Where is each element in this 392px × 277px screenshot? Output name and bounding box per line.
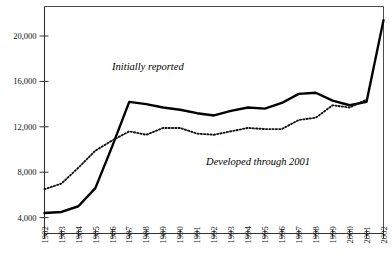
- series-label: Initially reported: [111, 61, 184, 72]
- x-tick-label: 1988: [141, 226, 151, 243]
- series-line-dotted: [45, 100, 367, 190]
- y-tick-label: 12,000: [13, 122, 36, 132]
- x-tick-label: 1997: [294, 226, 304, 244]
- x-tick-label: 1992: [209, 226, 219, 243]
- x-tick-label: 1990: [175, 226, 185, 243]
- y-axis-labels: 4,0008,00012,00016,00020,000: [13, 31, 36, 223]
- plot-axes: [45, 7, 384, 234]
- x-tick-label: 1991: [192, 226, 202, 243]
- x-tick-label: 1989: [158, 226, 168, 243]
- x-tick-label: 1983: [57, 226, 67, 243]
- x-tick-label: 1987: [124, 226, 134, 244]
- x-tick-label: 1999: [328, 226, 338, 243]
- y-tick-label: 8,000: [17, 167, 36, 177]
- x-tick-label: 1994: [243, 226, 253, 244]
- x-tick-label: 2000: [345, 226, 355, 243]
- x-axis-labels: 1982198319841985198619871988198919901991…: [40, 226, 389, 244]
- plot-border: [45, 7, 384, 234]
- x-tick-label: 1996: [277, 226, 287, 244]
- x-tick-label: 1993: [226, 226, 236, 243]
- x-tick-label: 1995: [260, 226, 270, 243]
- x-tick-label: 2001: [362, 226, 372, 243]
- series-line-solid: [45, 20, 384, 213]
- x-tick-label: 1982: [40, 226, 50, 243]
- x-tick-label: 1985: [91, 226, 101, 243]
- chart-figure: 4,0008,00012,00016,00020,000 19821983198…: [0, 0, 392, 277]
- x-tick-label: 1984: [74, 226, 84, 244]
- series-label: Developed through 2001: [205, 156, 310, 167]
- plot-frame: [45, 7, 384, 234]
- line-chart: 4,0008,00012,00016,00020,000 19821983198…: [0, 0, 392, 277]
- x-tick-label: 1998: [311, 226, 321, 243]
- y-tick-label: 16,000: [13, 76, 36, 86]
- x-tick-label: 1986: [108, 226, 118, 244]
- y-tick-label: 4,000: [17, 213, 36, 223]
- x-tick-label: 2002: [379, 226, 389, 243]
- data-series-layer: [45, 20, 384, 213]
- y-tick-label: 20,000: [13, 31, 36, 41]
